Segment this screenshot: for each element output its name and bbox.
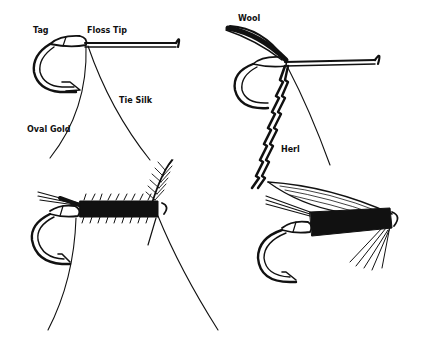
label-wool: Wool: [238, 15, 260, 23]
panel-3-hook: [32, 160, 218, 330]
label-tag: Tag: [33, 27, 49, 35]
fly-tying-diagram: Tag Floss Tip Tie Silk Oval Gold Wool He…: [0, 0, 425, 356]
panel-3-body: [80, 201, 158, 217]
panel-4-body: [310, 208, 392, 236]
label-tie-silk: Tie Silk: [119, 97, 152, 105]
panel-1-hook: [34, 36, 179, 160]
panel-3-hackle-barbs: [146, 160, 173, 200]
panel-2-hook: [226, 26, 379, 188]
label-floss-tip: Floss Tip: [87, 27, 127, 35]
diagram-drawing: [0, 0, 425, 356]
label-herl: Herl: [281, 146, 300, 154]
label-oval-gold: Oval Gold: [27, 126, 70, 134]
